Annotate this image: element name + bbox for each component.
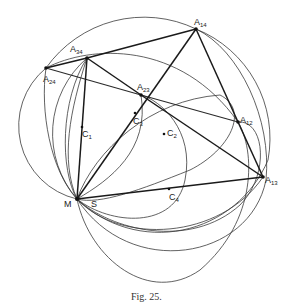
- label-c1: C1: [82, 129, 93, 140]
- geometry-figure: A34 A24 A14 A23 A12 A13 C1 C2 C3 C4 M S …: [0, 0, 292, 305]
- point-a34: [85, 56, 89, 60]
- label-s: S: [91, 199, 97, 209]
- point-a24: [44, 66, 48, 70]
- circle-c3: [77, 95, 234, 200]
- circle-bottom-2: [77, 177, 263, 230]
- point-m: [75, 197, 79, 201]
- label-c4: C4: [169, 192, 180, 203]
- label-a13: A13: [265, 175, 278, 186]
- line-a23-a12: [141, 95, 238, 122]
- label-c2: C2: [167, 128, 178, 139]
- label-a23: A23: [137, 82, 150, 93]
- circles: [19, 17, 270, 282]
- point-c3: [134, 112, 137, 115]
- line-a34-a23: [87, 58, 141, 95]
- figure-caption: Fig. 25.: [131, 291, 162, 302]
- circle-bottom-1: [77, 122, 260, 231]
- label-a34: A34: [70, 44, 83, 55]
- point-c2: [163, 133, 166, 136]
- point-c4: [168, 188, 171, 191]
- circle-inner-1: [44, 68, 77, 199]
- point-c1: [81, 126, 84, 129]
- line-a24-a23: [46, 68, 141, 95]
- circle-c2: [77, 95, 142, 199]
- point-a14: [194, 27, 198, 31]
- label-m: M: [64, 199, 72, 209]
- point-a23: [139, 93, 143, 97]
- label-a12: A12: [240, 115, 253, 126]
- label-a14: A14: [194, 17, 207, 28]
- label-a24: A24: [43, 74, 56, 85]
